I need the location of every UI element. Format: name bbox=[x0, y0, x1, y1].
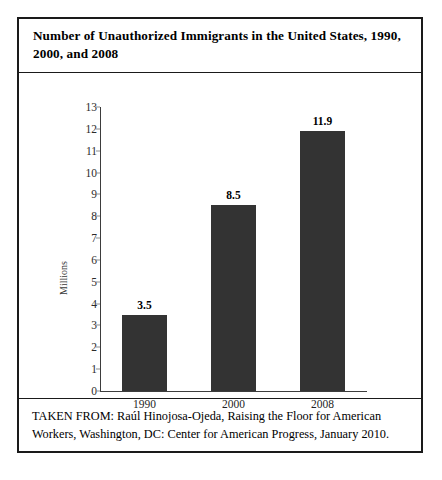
bar bbox=[300, 131, 345, 391]
figure-frame: Number of Unauthorized Immigrants in the… bbox=[17, 17, 423, 453]
page-title: Number of Unauthorized Immigrants in the… bbox=[33, 27, 407, 62]
y-axis-tick-label: 0 bbox=[71, 386, 97, 397]
bar bbox=[211, 205, 256, 391]
y-axis-tick-label: 7 bbox=[71, 233, 97, 244]
y-axis-tick-label: 4 bbox=[71, 298, 97, 309]
bar bbox=[122, 315, 167, 391]
chart-plot-area: Millions 012345678910111213 3.58.511.9 1… bbox=[19, 73, 421, 398]
y-axis-line bbox=[100, 107, 101, 392]
y-axis-tick-label: 3 bbox=[71, 320, 97, 331]
y-axis-tick-label: 11 bbox=[71, 145, 97, 156]
y-axis-tick-label: 10 bbox=[71, 167, 97, 178]
bar-value-label: 3.5 bbox=[137, 299, 151, 311]
caption-block: TAKEN FROM: Raúl Hinojosa-Ojeda, Raising… bbox=[19, 398, 421, 451]
y-axis-tick-label: 6 bbox=[71, 254, 97, 265]
bar-value-label: 8.5 bbox=[226, 189, 240, 201]
x-axis-line bbox=[100, 391, 367, 392]
y-axis-title: Millions bbox=[57, 243, 71, 313]
y-axis-tick-label: 5 bbox=[71, 276, 97, 287]
source-caption: TAKEN FROM: Raúl Hinojosa-Ojeda, Raising… bbox=[32, 408, 408, 443]
y-axis-tick-label: 1 bbox=[71, 364, 97, 375]
y-axis-tick-label: 8 bbox=[71, 211, 97, 222]
y-axis-tick-label: 9 bbox=[71, 189, 97, 200]
y-axis-tick-label: 13 bbox=[71, 102, 97, 113]
y-axis-tick-label: 12 bbox=[71, 123, 97, 134]
title-block: Number of Unauthorized Immigrants in the… bbox=[19, 19, 421, 73]
bar-value-label: 11.9 bbox=[313, 115, 333, 127]
y-axis-tick-label: 2 bbox=[71, 342, 97, 353]
